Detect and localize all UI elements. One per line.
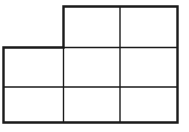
- figure-outline: [4, 7, 178, 123]
- page: [0, 0, 189, 132]
- grid-inner-lines: [4, 7, 178, 123]
- step-polygon-grid-figure: [0, 0, 189, 132]
